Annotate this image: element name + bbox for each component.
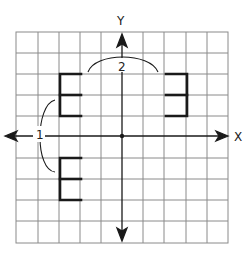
y-axis-label: Y xyxy=(116,14,125,28)
annotation-label-2: 2 xyxy=(118,60,126,74)
reflected-e-x-axis-shape xyxy=(60,158,81,200)
coordinate-grid-diagram: Y X 2 1 xyxy=(0,0,252,258)
origin-dot xyxy=(120,134,124,138)
x-axis-label: X xyxy=(234,130,242,144)
annotation-label-1: 1 xyxy=(36,128,44,142)
original-e-shape xyxy=(60,74,81,116)
reflected-e-y-axis-shape xyxy=(166,74,187,116)
